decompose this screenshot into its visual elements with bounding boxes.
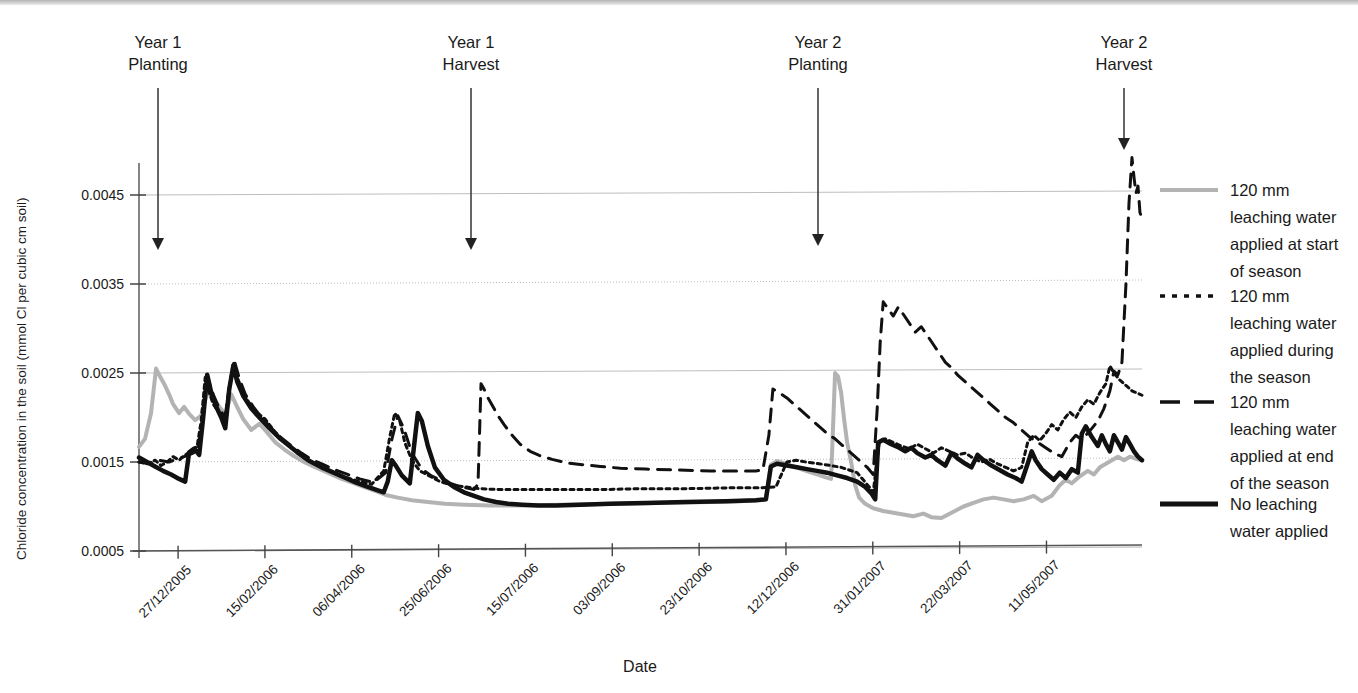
legend-label-line: 120 mm <box>1230 393 1290 411</box>
x-tick-label: 15/07/2006 <box>483 560 541 618</box>
y-tick-label: 0.0005 <box>81 543 124 559</box>
annotation-label-line1: Year 1 <box>447 33 494 51</box>
chloride-concentration-line-chart: 0.00050.00150.00250.00350.0045 27/12/200… <box>0 0 1358 693</box>
x-tick-label: 23/10/2006 <box>657 559 715 617</box>
legend-label-line: 120 mm <box>1230 181 1290 199</box>
x-tick-label: 06/04/2006 <box>309 561 367 619</box>
legend-label-line: leaching water <box>1230 314 1337 332</box>
data-series-layer <box>139 158 1142 518</box>
legend-label-line: applied during <box>1230 341 1334 359</box>
legend-item-1[interactable]: 120 mmleaching waterapplied at startof s… <box>1160 181 1339 280</box>
legend-item-4[interactable]: No leachingwater applied <box>1160 495 1328 540</box>
y-tick-group: 0.00050.00150.00250.00350.0045 <box>81 187 146 559</box>
legend-label-line: 120 mm <box>1230 287 1290 305</box>
event-annotations: Year 1PlantingYear 1HarvestYear 2Plantin… <box>128 33 1153 250</box>
annotation-label-line2: Planting <box>788 55 848 73</box>
x-axis-title: Date <box>623 658 657 675</box>
annotation-4: Year 2Harvest <box>1096 33 1153 150</box>
series-line <box>139 366 1142 506</box>
annotation-1: Year 1Planting <box>128 33 188 250</box>
y-tick-label: 0.0015 <box>81 454 124 470</box>
x-tick-label: 27/12/2005 <box>136 562 194 620</box>
legend-label-line: applied at end <box>1230 447 1334 465</box>
series-line <box>139 362 1142 492</box>
annotation-2: Year 1Harvest <box>443 33 500 250</box>
annotation-label-line1: Year 1 <box>134 33 181 51</box>
legend-item-2[interactable]: 120 mmleaching waterapplied duringthe se… <box>1160 287 1337 386</box>
x-tick-label: 12/12/2006 <box>744 559 802 617</box>
legend-label-line: of season <box>1230 262 1302 280</box>
x-tick-label: 11/05/2007 <box>1005 557 1063 615</box>
gridline <box>139 191 1142 195</box>
y-tick-label: 0.0025 <box>81 365 124 381</box>
legend-label-line: leaching water <box>1230 420 1337 438</box>
series-line <box>139 158 1142 490</box>
annotation-label-line1: Year 2 <box>794 33 841 51</box>
legend-label-line: of the season <box>1230 474 1329 492</box>
x-tick-label: 25/06/2006 <box>396 561 454 619</box>
annotation-arrow-head <box>812 234 824 246</box>
gridline <box>139 280 1142 284</box>
chart-legend: 120 mmleaching waterapplied at startof s… <box>1160 181 1339 540</box>
annotation-arrow-head <box>152 238 164 250</box>
y-axis-title: Chloride concentration in the soil (mmol… <box>14 198 29 560</box>
annotation-3: Year 2Planting <box>788 33 848 246</box>
x-tick-label: 22/03/2007 <box>917 558 975 616</box>
chart-figure: 0.00050.00150.00250.00350.0045 27/12/200… <box>0 0 1358 693</box>
x-tick-label: 03/09/2006 <box>570 560 628 618</box>
legend-item-3[interactable]: 120 mmleaching waterapplied at endof the… <box>1160 393 1337 492</box>
annotation-arrow-head <box>1118 138 1130 150</box>
annotation-label-line2: Harvest <box>443 55 500 73</box>
legend-label-line: leaching water <box>1230 208 1337 226</box>
annotation-label-line1: Year 2 <box>1100 33 1147 51</box>
x-tick-group: 27/12/200515/02/200606/04/200625/06/2006… <box>136 541 1063 621</box>
gridline <box>139 369 1142 373</box>
legend-label-line: the season <box>1230 368 1311 386</box>
annotation-label-line2: Planting <box>128 55 188 73</box>
y-tick-label: 0.0045 <box>81 187 124 203</box>
legend-label-line: water applied <box>1229 522 1328 540</box>
x-tick-label: 31/01/2007 <box>831 558 889 616</box>
annotation-label-line2: Harvest <box>1096 55 1153 73</box>
x-tick-label: 15/02/2006 <box>223 562 281 620</box>
legend-label-line: No leaching <box>1230 495 1317 513</box>
legend-label-line: applied at start <box>1230 235 1339 253</box>
annotation-arrow-head <box>465 238 477 250</box>
y-tick-label: 0.0035 <box>81 276 124 292</box>
